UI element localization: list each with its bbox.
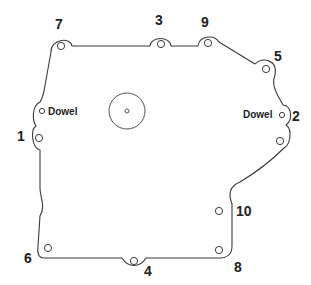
gasket-bolt-sequence-diagram: 7 3 9 5 Dowel 2 Dowel 1 10 8 6 4 [0,0,311,285]
label-dowel-left: Dowel [48,106,78,117]
label-7: 7 [55,16,63,32]
bolt-hole-4 [130,257,137,264]
label-dowel-right: Dowel [243,109,273,120]
bolt-hole-9 [204,39,211,46]
bolt-hole-3 [157,40,164,47]
dowel-hole-left [39,108,44,113]
bolt-hole-6 [44,244,51,251]
bolt-hole-8 [215,246,222,253]
center-opening [109,93,145,129]
bolt-hole-10 [215,207,222,214]
label-2: 2 [292,108,300,124]
dowel-hole-right [279,112,284,117]
bolt-hole-5 [262,65,269,72]
label-3: 3 [155,12,163,28]
label-9: 9 [201,14,209,30]
label-10: 10 [236,203,252,219]
bolt-hole-2 [276,137,283,144]
label-6: 6 [24,250,32,266]
label-8: 8 [234,259,242,275]
label-4: 4 [144,263,152,279]
label-1: 1 [17,128,25,144]
gasket-outline [33,37,291,265]
bolt-hole-1 [35,134,42,141]
label-5: 5 [274,48,282,64]
bolt-hole-7 [57,42,64,49]
center-pin [125,109,129,113]
